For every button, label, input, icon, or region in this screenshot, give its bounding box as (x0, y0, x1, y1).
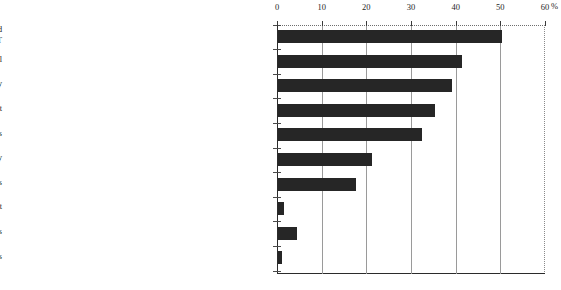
x-tick-0 (277, 21, 278, 26)
y-tick (273, 271, 281, 272)
gridline-50 (500, 25, 501, 274)
x-tick-40 (456, 21, 457, 26)
y-tick (273, 148, 281, 149)
y-tick (273, 172, 281, 173)
y-tick (273, 221, 281, 222)
bar (278, 178, 356, 191)
category-label: Lack of hardware and software that match… (0, 178, 2, 189)
bar (278, 128, 422, 141)
plot-area (277, 25, 545, 274)
x-tick-label-50: 50 (496, 2, 505, 12)
y-tick (273, 123, 281, 124)
category-label: Incompatibility with personnel policies … (0, 202, 2, 213)
category-label: No particular problems (0, 227, 2, 238)
bar (278, 79, 452, 92)
bar (278, 202, 284, 215)
x-tick-50 (500, 21, 501, 26)
y-tick (273, 49, 281, 50)
x-tick-label-40: 40 (451, 2, 460, 12)
y-tick (273, 246, 281, 247)
x-tick-label-60: 60 (541, 2, 550, 12)
category-label: Insufficient workers' re-education for i… (0, 55, 2, 66)
bar (278, 227, 297, 240)
bar (278, 30, 502, 43)
category-label: Serious lack of professional personnel t… (0, 25, 2, 46)
axis-right-border (544, 25, 545, 274)
x-tick-60 (545, 21, 546, 26)
bar (278, 104, 435, 117)
category-label: Lower cost effectiveness of IT investmen… (0, 104, 2, 115)
bar (278, 153, 372, 166)
x-tick-label-0: 0 (275, 2, 279, 12)
category-label: Difficulty in ensuring the information s… (0, 153, 2, 164)
category-label: Obsolescence caused by rapid innovations… (0, 79, 2, 90)
y-tick (273, 98, 281, 99)
x-tick-label-10: 10 (317, 2, 326, 12)
bar-chart: 0102030405060 % Serious lack of professi… (0, 0, 561, 290)
x-tick-label-30: 30 (407, 2, 416, 12)
y-tick (273, 197, 281, 198)
category-label: Too high communication fees (0, 129, 2, 140)
x-tick-10 (322, 21, 323, 26)
bar (278, 251, 282, 264)
x-tick-label-20: 20 (362, 2, 371, 12)
x-tick-30 (411, 21, 412, 26)
x-tick-20 (366, 21, 367, 26)
y-tick (273, 74, 281, 75)
bar (278, 55, 462, 68)
category-label: Others (0, 252, 2, 263)
axis-unit-label: % (551, 1, 558, 11)
